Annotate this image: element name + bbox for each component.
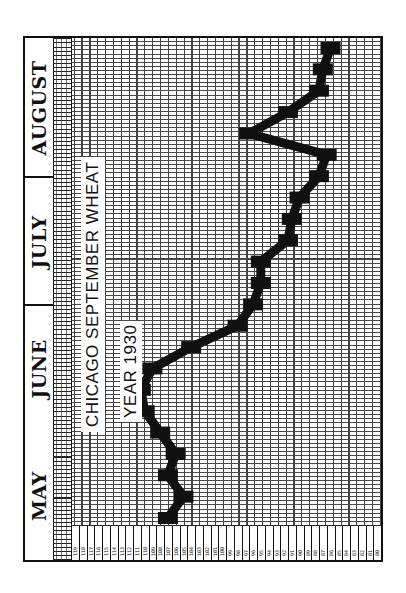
price-range-bar [239, 127, 259, 139]
price-tick-label: 98 [235, 550, 241, 556]
price-tick-label: 99 [227, 550, 233, 556]
month-july: JULY [25, 178, 53, 306]
price-range-bar [158, 469, 178, 481]
price-range-bar [251, 256, 271, 268]
price-tick-label: 90 [297, 550, 303, 556]
price-tick-rule [296, 526, 297, 560]
price-tick-label: 108 [157, 547, 163, 556]
price-tick-rule [71, 526, 72, 560]
price-tick-label: 112 [126, 547, 132, 556]
price-tick-rule [358, 526, 359, 560]
price-tick-rule [102, 526, 103, 560]
price-tick-rule [94, 526, 95, 560]
price-tick-label: 106 [173, 547, 179, 556]
price-tick-rule [156, 526, 157, 560]
price-tick-label: 81 [367, 550, 373, 556]
price-line [141, 48, 331, 518]
price-tick-rule [218, 526, 219, 560]
price-range-bar [309, 85, 329, 97]
price-tick-rule [242, 526, 243, 560]
price-range-bar [228, 320, 248, 332]
price-axis: 1191181171161151141131121111101091081071… [71, 525, 381, 560]
price-tick-label: 89 [305, 550, 311, 556]
price-range-bar [251, 277, 271, 289]
price-tick-label: 101 [212, 547, 218, 556]
price-range-bar [243, 298, 263, 310]
price-range-bar [317, 149, 337, 161]
price-tick-label: 116 [95, 547, 101, 556]
chart-frame: MAY JUNE JULY AUGUST 1191181171161151141… [23, 36, 383, 562]
price-tick-rule [180, 526, 181, 560]
price-tick-label: 110 [142, 547, 148, 556]
price-tick-label: 83 [351, 550, 357, 556]
price-tick-label: 80 [374, 550, 380, 556]
price-tick-rule [87, 526, 88, 560]
price-tick-rule [172, 526, 173, 560]
price-tick-label: 91 [289, 550, 295, 556]
price-tick-rule [350, 526, 351, 560]
price-tick-label: 85 [336, 550, 342, 556]
price-range-bar [150, 427, 170, 439]
price-tick-rule [195, 526, 196, 560]
price-range-bar [142, 362, 162, 374]
price-range-bar [278, 106, 298, 118]
price-tick-label: 84 [343, 550, 349, 556]
price-tick-rule [141, 526, 142, 560]
price-tick-label: 88 [312, 550, 318, 556]
price-tick-label: 96 [250, 550, 256, 556]
price-tick-rule [265, 526, 266, 560]
price-range-bar [166, 448, 186, 460]
price-series [71, 38, 381, 526]
price-tick-rule [288, 526, 289, 560]
price-tick-label: 113 [119, 547, 125, 556]
price-range-bar [282, 213, 302, 225]
price-tick-rule [125, 526, 126, 560]
price-tick-rule [118, 526, 119, 560]
price-tick-rule [187, 526, 188, 560]
month-august: AUGUST [25, 38, 53, 178]
price-tick-label: 107 [165, 547, 171, 556]
price-tick-rule [211, 526, 212, 560]
price-tick-label: 82 [359, 550, 365, 556]
price-tick-rule [203, 526, 204, 560]
price-tick-label: 95 [258, 550, 264, 556]
price-tick-label: 93 [274, 550, 280, 556]
price-range-bar [290, 192, 310, 204]
chart-year: YEAR 1930 [120, 321, 142, 422]
price-tick-rule [164, 526, 165, 560]
price-tick-rule [304, 526, 305, 560]
price-tick-rule [342, 526, 343, 560]
price-tick-rule [133, 526, 134, 560]
price-tick-rule [257, 526, 258, 560]
price-tick-rule [311, 526, 312, 560]
price-tick-label: 100 [219, 547, 225, 556]
day-strip [53, 38, 72, 560]
rotated-chart: MAY JUNE JULY AUGUST 1191181171161151141… [25, 38, 381, 560]
price-tick-rule [280, 526, 281, 560]
price-tick-label: 87 [320, 550, 326, 556]
price-tick-rule [234, 526, 235, 560]
price-range-bar [173, 491, 193, 503]
price-tick-label: 86 [328, 550, 334, 556]
price-tick-label: 94 [266, 550, 272, 556]
price-tick-label: 118 [80, 547, 86, 556]
price-tick-rule [149, 526, 150, 560]
price-tick-label: 115 [103, 547, 109, 556]
price-range-bar [313, 63, 333, 75]
price-tick-label: 104 [188, 547, 194, 556]
price-tick-label: 103 [196, 547, 202, 556]
price-tick-rule [110, 526, 111, 560]
price-range-bar [321, 42, 341, 54]
price-tick-label: 105 [181, 547, 187, 556]
price-range-bar [278, 234, 298, 246]
price-range-bar [158, 512, 178, 524]
month-june: JUNE [25, 306, 53, 432]
price-tick-rule [226, 526, 227, 560]
price-tick-label: 111 [134, 547, 140, 556]
price-tick-rule [319, 526, 320, 560]
price-tick-rule [335, 526, 336, 560]
price-range-bar [181, 341, 201, 353]
price-tick-rule [249, 526, 250, 560]
price-tick-label: 117 [88, 547, 94, 556]
month-may: MAY [25, 432, 53, 560]
